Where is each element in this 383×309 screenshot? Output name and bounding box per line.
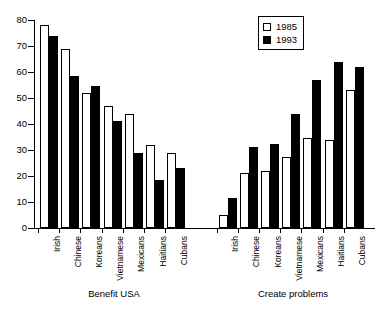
bar-benefit-usa-mexicans-1993	[134, 153, 143, 228]
x-category-label-chinese: Chinese	[74, 236, 83, 267]
x-category-label-koreans: Koreans	[95, 236, 104, 268]
bar-benefit-usa-irish-1985	[40, 25, 49, 228]
bar-create-problems-cubans-1993	[355, 67, 364, 228]
bar-benefit-usa-cubans-1993	[176, 168, 185, 228]
x-tick-mark	[344, 229, 345, 233]
y-tick-label: 10	[16, 197, 27, 207]
x-tick-mark	[217, 229, 218, 233]
x-tick-mark	[59, 229, 60, 233]
x-tick-mark	[301, 229, 302, 233]
y-tick-label: 30	[16, 145, 27, 155]
legend-item-1993: 1993	[263, 33, 297, 46]
group-label-benefit-usa: Benefit USA	[54, 288, 174, 299]
y-tick-label: 60	[16, 67, 27, 77]
group-label-create-problems: Create problems	[233, 288, 353, 299]
bar-create-problems-vietnamese-1993	[291, 114, 300, 228]
bar-benefit-usa-haitians-1985	[146, 145, 155, 228]
x-category-label-vietnamese: Vietnamese	[116, 236, 125, 281]
chart-legend: 1985 1993	[258, 16, 304, 50]
legend-item-1985: 1985	[263, 20, 297, 33]
x-tick-mark	[123, 229, 124, 233]
x-category-label-haitians: Haitians	[159, 236, 168, 267]
bar-benefit-usa-koreans-1993	[91, 86, 100, 228]
x-category-label-cubans: Cubans	[180, 236, 189, 265]
legend-swatch-1993-icon	[263, 36, 271, 44]
x-category-label-vietnamese: Vietnamese	[295, 236, 304, 281]
legend-label-1993: 1993	[276, 35, 297, 45]
bar-benefit-usa-haitians-1993	[155, 180, 164, 228]
x-category-label-mexicans: Mexicans	[316, 236, 325, 272]
bar-benefit-usa-mexicans-1985	[125, 114, 134, 228]
x-tick-mark	[238, 229, 239, 233]
y-tick-label: 80	[16, 15, 27, 25]
bar-create-problems-haitians-1993	[334, 62, 343, 228]
x-tick-mark	[102, 229, 103, 233]
x-tick-mark	[144, 229, 145, 233]
bar-benefit-usa-cubans-1985	[167, 153, 176, 228]
x-category-label-irish: Irish	[53, 236, 62, 252]
y-tick-label: 70	[16, 41, 27, 51]
x-category-label-cubans: Cubans	[358, 236, 367, 265]
bar-create-problems-mexicans-1993	[312, 80, 321, 228]
x-category-label-irish: Irish	[231, 236, 240, 252]
bar-create-problems-cubans-1985	[346, 90, 355, 228]
x-category-label-mexicans: Mexicans	[137, 236, 146, 272]
bar-benefit-usa-irish-1993	[49, 36, 58, 228]
bar-create-problems-irish-1993	[228, 198, 237, 228]
x-tick-mark	[280, 229, 281, 233]
x-tick-mark	[323, 229, 324, 233]
x-category-label-haitians: Haitians	[337, 236, 346, 267]
x-category-label-chinese: Chinese	[252, 236, 261, 267]
x-tick-mark	[80, 229, 81, 233]
bar-benefit-usa-koreans-1985	[82, 93, 91, 228]
y-axis-labels: 01020304050607080	[0, 0, 27, 309]
bar-create-problems-chinese-1985	[240, 173, 249, 228]
x-tick-mark	[165, 229, 166, 233]
bar-create-problems-chinese-1993	[249, 147, 258, 228]
bar-create-problems-irish-1985	[219, 215, 228, 228]
bar-create-problems-mexicans-1985	[303, 138, 312, 228]
y-tick-label: 0	[22, 223, 27, 233]
bar-benefit-usa-vietnamese-1993	[113, 121, 122, 228]
bar-benefit-usa-chinese-1993	[70, 76, 79, 228]
x-category-label-koreans: Koreans	[274, 236, 283, 268]
bar-benefit-usa-vietnamese-1985	[104, 106, 113, 228]
x-tick-mark	[38, 229, 39, 233]
x-tick-mark	[259, 229, 260, 233]
bar-create-problems-vietnamese-1985	[282, 157, 291, 229]
legend-label-1985: 1985	[276, 22, 297, 32]
y-tick-label: 40	[16, 119, 27, 129]
legend-swatch-1985-icon	[263, 23, 271, 31]
y-tick-label: 50	[16, 93, 27, 103]
bar-create-problems-haitians-1985	[325, 140, 334, 228]
bar-benefit-usa-chinese-1985	[61, 49, 70, 228]
bar-create-problems-koreans-1993	[270, 144, 279, 229]
bar-create-problems-koreans-1985	[261, 171, 270, 228]
bar-chart: 01020304050607080 IrishChineseKoreansVie…	[0, 0, 383, 309]
y-tick-label: 20	[16, 171, 27, 181]
bars-layer	[34, 20, 375, 228]
